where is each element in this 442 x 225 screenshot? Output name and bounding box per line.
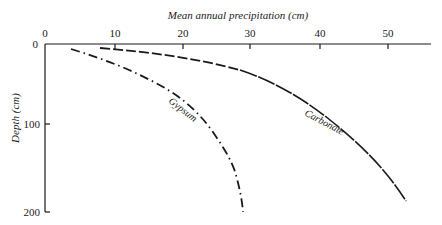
x-tick-0: 0 [42, 27, 48, 39]
y-tick-200: 200 [24, 206, 41, 218]
carbonate-curve-dashed [100, 48, 240, 70]
x-tick-labels: 0 10 20 30 40 50 [42, 27, 394, 39]
y-tick-0: 0 [33, 38, 39, 50]
gypsum-curve [71, 49, 243, 212]
y-axis-title: Depth (cm) [9, 93, 22, 144]
y-axis [45, 44, 50, 212]
y-tick-labels: 0 100 200 [24, 38, 41, 218]
carbonate-curve-solid [240, 70, 406, 201]
carbonate-label: Carbonate [303, 107, 346, 137]
depth-precipitation-chart: Mean annual precipitation (cm) 0 10 20 3… [0, 0, 442, 225]
x-tick-10: 10 [110, 27, 122, 39]
x-tick-40: 40 [315, 27, 327, 39]
x-tick-20: 20 [178, 27, 190, 39]
x-tick-30: 30 [245, 27, 257, 39]
y-tick-100: 100 [24, 118, 41, 130]
x-tick-50: 50 [383, 27, 395, 39]
x-axis-title: Mean annual precipitation (cm) [167, 9, 309, 22]
